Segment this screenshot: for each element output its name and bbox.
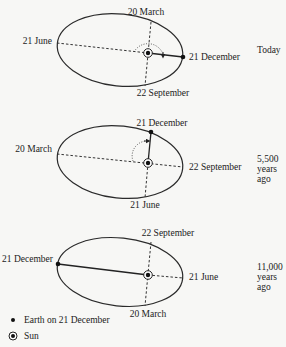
legend: Earth on 21 December Sun (9, 315, 111, 341)
sun-core (146, 51, 150, 55)
label-top: 21 December (137, 118, 189, 128)
axis-line (148, 275, 183, 278)
legend-sun-label: Sun (24, 331, 39, 341)
legend-earth-label: Earth on 21 December (24, 315, 111, 325)
label-right: 21 December (189, 52, 241, 62)
sun-earth-line (148, 53, 183, 57)
time-label-line2: years (257, 164, 277, 174)
time-label-line2: years (257, 272, 277, 282)
label-left: 21 June (23, 36, 52, 46)
panel-today: 20 March 21 June 21 December 22 Septembe… (23, 7, 281, 98)
precession-arc (132, 141, 148, 161)
earth-icon (56, 262, 61, 267)
label-top: 20 March (128, 7, 165, 17)
label-left: 21 December (2, 254, 54, 264)
label-bottom: 22 September (137, 88, 190, 98)
earth-legend-icon (11, 318, 15, 322)
earth-icon (181, 55, 186, 60)
sun-earth-line (58, 264, 148, 275)
time-label-line1: 11,000 (257, 262, 283, 272)
sun-legend-core (11, 334, 15, 338)
label-top: 22 September (142, 228, 195, 238)
orbit-ellipse (54, 120, 187, 205)
label-right: 22 September (189, 162, 242, 172)
time-label-line3: ago (257, 282, 271, 292)
sun-core (146, 161, 150, 165)
axis-line (57, 154, 183, 167)
label-left: 20 March (15, 144, 52, 154)
panel-11000-years-ago: 22 September 21 December 21 June 20 Marc… (2, 228, 283, 319)
panel-5500-years-ago: 21 December 20 March 22 September 21 Jun… (15, 118, 278, 210)
label-bottom: 21 June (130, 200, 159, 210)
axis-line (145, 163, 148, 198)
precession-diagram: 20 March 21 June 21 December 22 Septembe… (0, 0, 286, 347)
sun-core (146, 273, 150, 277)
time-label-line1: 5,500 (257, 154, 279, 164)
earth-icon (149, 130, 154, 135)
label-bottom: 20 March (130, 309, 167, 319)
time-label: Today (257, 45, 281, 55)
label-right: 21 June (189, 272, 218, 282)
time-label-line3: ago (257, 174, 271, 184)
